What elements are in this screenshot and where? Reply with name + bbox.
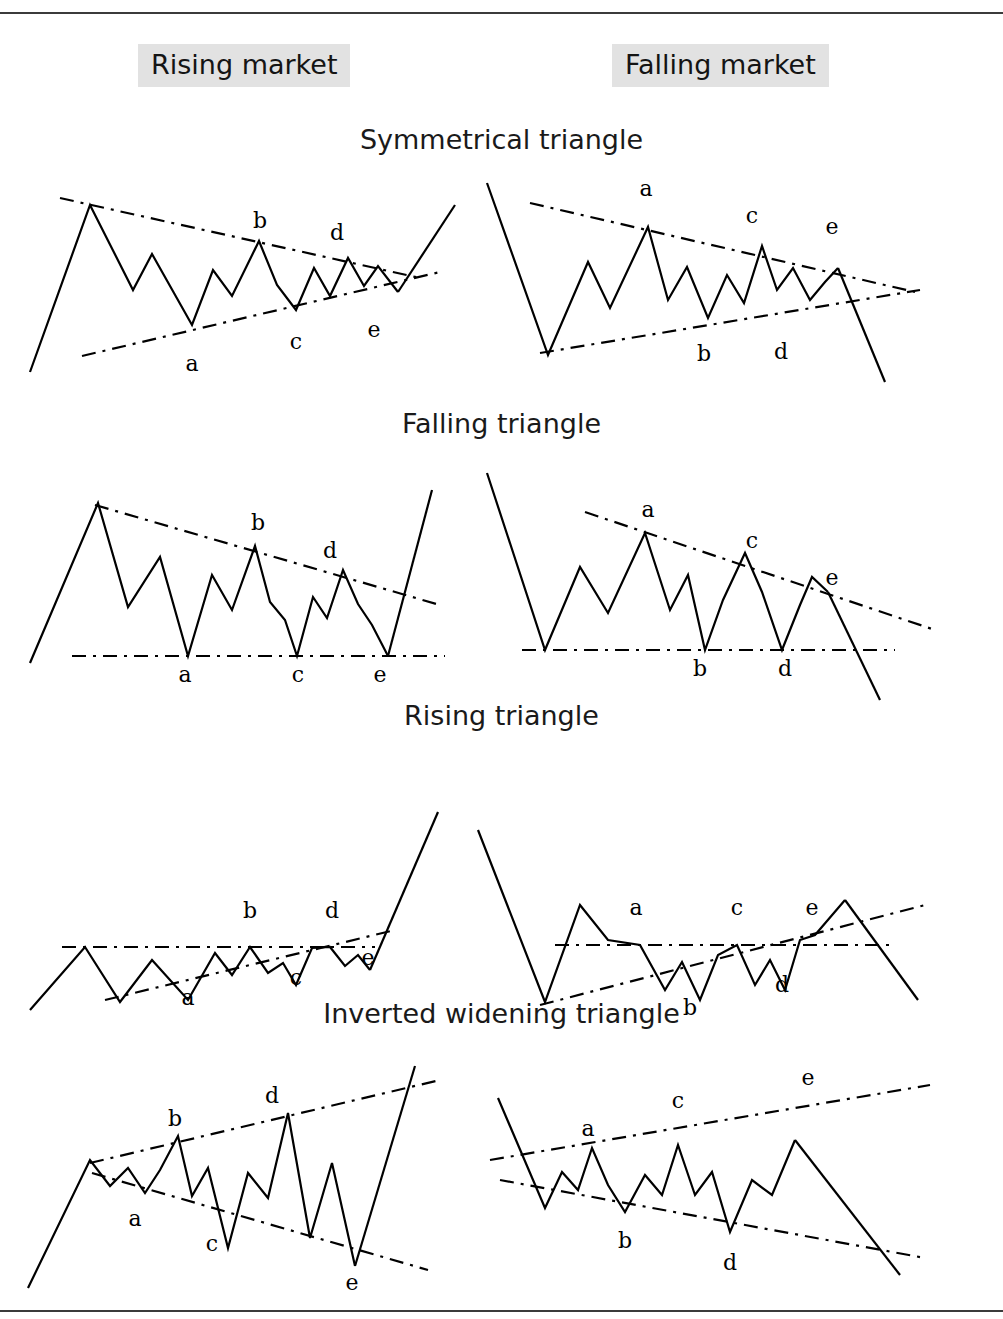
- swing-label-a: a: [181, 985, 194, 1010]
- breakout-leg: [845, 900, 918, 1000]
- column-header-rising-market: Rising market: [138, 44, 350, 87]
- swing-label-a: a: [178, 662, 191, 687]
- swing-label-a: a: [128, 1206, 141, 1231]
- chart-symmetrical-triangle-rising: b d a c e: [0, 160, 480, 400]
- swing-label-b: b: [251, 510, 265, 535]
- price-zigzag: [30, 947, 370, 1010]
- lower-trendline: [540, 905, 925, 1005]
- swing-label-c: c: [290, 329, 302, 354]
- chart-inverted-widening-triangle-falling: a c e b d: [470, 1038, 1003, 1308]
- upper-trendline: [530, 203, 915, 292]
- swing-label-b: b: [697, 341, 711, 366]
- pattern-diagram-figure: Rising market Falling market Symmetrical…: [0, 0, 1003, 1319]
- breakout-leg: [388, 490, 432, 656]
- swing-label-d: d: [775, 972, 789, 997]
- lower-trendline: [540, 290, 920, 353]
- swing-label-c: c: [672, 1088, 684, 1113]
- breakout-leg: [838, 268, 885, 382]
- swing-label-a: a: [185, 351, 198, 376]
- price-zigzag: [487, 473, 828, 650]
- swing-label-b: b: [243, 898, 257, 923]
- chart-falling-triangle-rising: b d a c e: [0, 460, 480, 705]
- breakout-leg: [795, 1140, 900, 1275]
- swing-label-e: e: [373, 662, 386, 687]
- swing-label-b: b: [168, 1106, 182, 1131]
- swing-label-e: e: [361, 945, 374, 970]
- pattern-title-falling-triangle: Falling triangle: [0, 408, 1003, 439]
- swing-label-b: b: [618, 1228, 632, 1253]
- lower-trendline: [500, 1180, 925, 1258]
- chart-rising-triangle-rising: b d a c e: [0, 760, 480, 1020]
- upper-trendline: [490, 1085, 930, 1160]
- swing-label-a: a: [581, 1116, 594, 1141]
- chart-inverted-widening-triangle-rising: b d a c e: [0, 1038, 480, 1308]
- swing-label-e: e: [367, 317, 380, 342]
- swing-label-d: d: [723, 1250, 737, 1275]
- pattern-title-symmetrical-triangle: Symmetrical triangle: [0, 124, 1003, 155]
- swing-label-b: b: [253, 208, 267, 233]
- price-zigzag: [487, 183, 838, 355]
- swing-label-d: d: [774, 339, 788, 364]
- column-header-falling-market: Falling market: [612, 44, 829, 87]
- swing-label-d: d: [265, 1083, 279, 1108]
- chart-symmetrical-triangle-falling: a c e b d: [470, 160, 1003, 400]
- price-zigzag: [30, 503, 388, 663]
- swing-label-c: c: [746, 203, 758, 228]
- price-zigzag: [478, 830, 845, 1002]
- swing-label-d: d: [778, 656, 792, 681]
- upper-trendline: [60, 198, 420, 278]
- swing-label-c: c: [731, 895, 743, 920]
- swing-label-d: d: [323, 538, 337, 563]
- swing-label-e: e: [801, 1065, 814, 1090]
- swing-label-c: c: [206, 1231, 218, 1256]
- chart-falling-triangle-falling: a c e b d: [470, 460, 1003, 705]
- breakout-leg: [355, 1066, 415, 1266]
- breakout-leg: [370, 812, 438, 970]
- swing-label-e: e: [825, 565, 838, 590]
- swing-label-a: a: [639, 176, 652, 201]
- swing-label-b: b: [693, 656, 707, 681]
- swing-label-a: a: [629, 895, 642, 920]
- swing-label-c: c: [290, 965, 302, 990]
- swing-label-d: d: [330, 220, 344, 245]
- swing-label-e: e: [825, 214, 838, 239]
- swing-label-a: a: [641, 497, 654, 522]
- swing-label-b: b: [683, 995, 697, 1020]
- top-divider-rule: [0, 12, 1003, 14]
- bottom-divider-rule: [0, 1310, 1003, 1312]
- swing-label-e: e: [805, 895, 818, 920]
- swing-label-d: d: [325, 898, 339, 923]
- swing-label-c: c: [746, 528, 758, 553]
- chart-rising-triangle-falling: a c e b d: [470, 760, 1003, 1020]
- swing-label-e: e: [345, 1270, 358, 1295]
- swing-label-c: c: [292, 662, 304, 687]
- upper-trendline: [585, 512, 935, 630]
- price-zigzag: [498, 1098, 795, 1232]
